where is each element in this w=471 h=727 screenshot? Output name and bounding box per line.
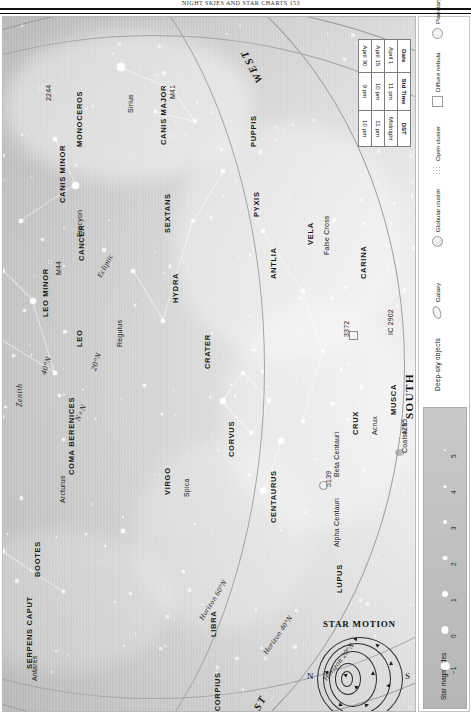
constellation-label-antlia: ANTLIA: [269, 247, 278, 279]
motion-arrow: [325, 671, 330, 676]
motion-arrow: [389, 661, 393, 665]
constellation-label-leo: LEO: [75, 329, 84, 347]
dso-label-coalsack: Coalsack: [401, 423, 408, 453]
magnitude-value: 5: [450, 454, 457, 458]
galaxy-icon: [431, 305, 443, 320]
viewing-time-table-wrapper: Date Std Time DST April 1 11 pm Midnight…: [359, 39, 411, 147]
constellation-label-libra: LIBRA: [209, 611, 218, 637]
cell-dst: 10 pm: [359, 111, 372, 147]
constellation-label-lupus: LUPUS: [335, 564, 344, 593]
column-header-std: Std Time: [398, 72, 411, 111]
constellation-label-corvus: CORVUS: [227, 421, 236, 457]
constellation-label-hydra: HYDRA: [171, 273, 180, 303]
magnitude-dot: [442, 591, 448, 597]
viewing-time-table: Date Std Time DST April 1 11 pm Midnight…: [358, 39, 411, 147]
star-chart-page: NIGHT SKIES AND STAR CHARTS 153 MONOCERO…: [0, 0, 471, 727]
cell-dst: Midnight: [385, 111, 398, 147]
magnitude-dot: [443, 520, 447, 524]
star-label-arcturus: Arcturus: [59, 475, 66, 503]
constellation-label-bootes: BOOTES: [33, 541, 42, 577]
globular-cluster-icon: [432, 236, 443, 247]
star-motion-inset: STAR MOTION N S: [309, 621, 413, 712]
star-label-antares: Antares: [31, 655, 38, 681]
dso-marker-coalsack: [395, 449, 404, 456]
magnitude-dot: [441, 662, 450, 671]
magnitude-dot: [441, 626, 448, 633]
constellation-label-canis-minor: CANIS MINOR: [58, 145, 67, 203]
motion-label-south: S: [405, 671, 410, 681]
magnitude-dot: [444, 485, 447, 488]
constellation-label-puppis: PUPPIS: [249, 115, 258, 147]
cell-date: April 30: [359, 40, 372, 73]
dso-marker-ic2902: [393, 329, 400, 336]
constellation-label-scorpius: SCORPIUS: [213, 672, 222, 712]
legend-item-planetary-nebula: Planetary nebula: [424, 0, 450, 39]
constellation-label-virgo: VIRGO: [163, 467, 172, 495]
diffuse-nebula-icon: [432, 96, 443, 107]
star-label-alpha-cen: Alpha Centauri: [333, 498, 340, 547]
magnitude-value: 0: [450, 634, 457, 638]
header-rule-thick: [0, 8, 471, 10]
dso-label-m44: M44: [55, 261, 62, 275]
star-magnitude-scale: Star magnitudes −1012345: [423, 407, 467, 709]
constellation-label-coma: COMA BERENICES: [67, 397, 76, 475]
constellation-label-monoceros: MONOCEROS: [75, 91, 84, 147]
magnitude-value: 4: [450, 490, 457, 494]
constellation-label-centaurus: CENTAURUS: [269, 470, 278, 523]
column-header-dst: DST: [398, 111, 411, 147]
sky-chart-frame: MONOCEROS CANIS MAJOR CANIS MINOR CANCER…: [2, 16, 416, 712]
magnitude-value: 3: [450, 526, 457, 530]
dso-marker-2244: [37, 85, 44, 92]
header-rule-thin: [0, 13, 471, 14]
cell-date: April 15: [372, 40, 385, 73]
constellation-label-crater: CRATER: [203, 334, 212, 369]
dso-marker-4755: [395, 431, 402, 438]
table-header-row: Date Std Time DST: [398, 40, 411, 147]
star-label-beta-cen: Beta Centauri: [333, 432, 340, 477]
magnitude-dot: [443, 556, 448, 561]
chart-legend: Deep-sky objects Galaxy Globular cluster…: [418, 16, 470, 712]
star-motion-title: STAR MOTION: [323, 619, 396, 629]
table-row: April 30 9 pm 10 pm: [359, 40, 372, 147]
constellation-label-vela: VELA: [306, 222, 315, 245]
constellation-label-crux: CRUX: [351, 411, 360, 435]
constellation-label-sextans: SEXTANS: [163, 193, 172, 233]
constellation-label-carina: CARINA: [359, 246, 368, 279]
cell-date: April 1: [385, 40, 398, 73]
magnitude-value: −1: [450, 667, 457, 674]
zenith-label: Zenith: [15, 384, 24, 407]
star-label-spica: Spica: [183, 478, 190, 497]
magnitude-scale-title: Star magnitudes: [440, 653, 447, 700]
magnitude-value: 2: [450, 562, 457, 566]
table-row: April 1 11 pm Midnight: [385, 40, 398, 147]
motion-arrow: [353, 637, 357, 641]
feature-label-false-cross: False Cross: [323, 215, 330, 255]
planetary-nebula-icon: [432, 28, 443, 39]
dso-marker-5139: [319, 481, 328, 490]
star-label-acrux: Acrux: [371, 416, 378, 435]
constellation-label-leo-minor: LEO MINOR: [41, 268, 50, 317]
star-label-sirius: Sirius: [127, 94, 134, 113]
magnitude-value: 1: [450, 598, 457, 602]
magnitude-dot: [444, 449, 446, 451]
cell-std: 11 pm: [385, 72, 398, 111]
dso-marker-m44: [47, 259, 54, 266]
cell-std: 10 pm: [372, 72, 385, 111]
table-row: April 15 10 pm 11 pm: [372, 40, 385, 147]
constellation-label-pyxis: PYXIS: [252, 191, 261, 217]
dso-label-2244: 2244: [45, 85, 52, 101]
dso-marker-3372: [349, 331, 358, 340]
star-label-procyon: Procyon: [76, 210, 83, 237]
deep-sky-legend: Deep-sky objects Galaxy Globular cluster…: [420, 19, 468, 397]
cell-std: 9 pm: [359, 72, 372, 111]
constellation-label-musca: MUSCA: [389, 384, 398, 415]
star-label-regulus: Regulus: [116, 320, 123, 347]
open-cluster-icon: [432, 165, 442, 175]
motion-arrow: [371, 671, 375, 675]
compass-label-south: SOUTH: [403, 373, 415, 419]
column-header-date: Date: [398, 40, 411, 73]
constellation-label-canis-major: CANIS MAJOR: [159, 85, 168, 145]
motion-label-north: N: [307, 671, 314, 681]
dso-marker-m41: [161, 83, 168, 90]
cell-dst: 11 pm: [372, 111, 385, 147]
